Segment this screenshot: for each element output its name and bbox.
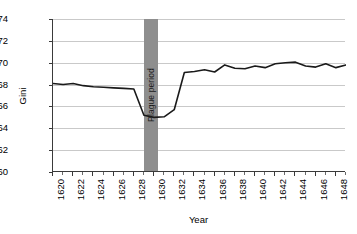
x-minor-tick-mark bbox=[345, 172, 346, 175]
x-tick-label: 1648 bbox=[339, 179, 349, 200]
x-tick-mark bbox=[254, 172, 255, 176]
x-tick-label: 1642 bbox=[278, 179, 288, 200]
x-tick-label: 1622 bbox=[76, 179, 86, 200]
x-minor-tick-mark bbox=[244, 172, 245, 175]
x-minor-tick-mark bbox=[123, 172, 124, 175]
x-tick-label: 1630 bbox=[157, 179, 167, 200]
x-tick-mark bbox=[113, 172, 114, 176]
x-tick-mark bbox=[52, 172, 53, 176]
x-minor-tick-mark bbox=[183, 172, 184, 175]
x-tick-mark bbox=[92, 172, 93, 176]
x-tick-mark bbox=[72, 172, 73, 176]
y-tick-label: 72 bbox=[0, 36, 8, 46]
x-minor-tick-mark bbox=[163, 172, 164, 175]
y-tick-label: 62 bbox=[0, 145, 8, 155]
data-line-svg bbox=[53, 19, 346, 172]
x-tick-mark bbox=[234, 172, 235, 176]
y-axis-title-wrapper: Gini bbox=[18, 0, 19, 234]
x-tick-mark bbox=[335, 172, 336, 176]
y-tick-label: 70 bbox=[0, 58, 8, 68]
x-axis-title: Year bbox=[52, 214, 345, 225]
x-tick-label: 1644 bbox=[298, 179, 308, 200]
x-minor-tick-mark bbox=[103, 172, 104, 175]
x-minor-tick-mark bbox=[264, 172, 265, 175]
x-tick-mark bbox=[274, 172, 275, 176]
gini-line-chart: Gini 6062646668707274 Plague period 1620… bbox=[0, 0, 357, 234]
x-minor-tick-mark bbox=[204, 172, 205, 175]
plot-area: Plague period bbox=[52, 19, 345, 172]
y-axis-title: Gini bbox=[17, 88, 28, 105]
x-minor-tick-mark bbox=[284, 172, 285, 175]
y-tick-label: 66 bbox=[0, 102, 8, 112]
x-tick-label: 1628 bbox=[137, 179, 147, 200]
x-tick-label: 1640 bbox=[258, 179, 268, 200]
x-tick-mark bbox=[294, 172, 295, 176]
y-tick-label: 60 bbox=[0, 167, 8, 177]
data-line-layer bbox=[53, 19, 345, 171]
x-tick-label: 1634 bbox=[197, 179, 207, 200]
x-tick-mark bbox=[193, 172, 194, 176]
x-tick-label: 1636 bbox=[218, 179, 228, 200]
x-minor-tick-mark bbox=[82, 172, 83, 175]
x-minor-tick-mark bbox=[325, 172, 326, 175]
x-minor-tick-mark bbox=[224, 172, 225, 175]
x-tick-mark bbox=[214, 172, 215, 176]
x-tick-mark bbox=[133, 172, 134, 176]
x-minor-tick-mark bbox=[62, 172, 63, 175]
x-tick-mark bbox=[173, 172, 174, 176]
x-tick-label: 1638 bbox=[238, 179, 248, 200]
gini-series-line bbox=[53, 62, 346, 117]
y-tick-label: 64 bbox=[0, 124, 8, 134]
x-tick-label: 1620 bbox=[56, 179, 66, 200]
y-tick-label: 68 bbox=[0, 80, 8, 90]
x-tick-label: 1624 bbox=[96, 179, 106, 200]
x-minor-tick-mark bbox=[143, 172, 144, 175]
y-tick-label: 74 bbox=[0, 14, 8, 24]
x-minor-tick-mark bbox=[305, 172, 306, 175]
x-tick-label: 1646 bbox=[319, 179, 329, 200]
x-tick-mark bbox=[153, 172, 154, 176]
x-tick-label: 1626 bbox=[117, 179, 127, 200]
x-axis: 1620162216241626162816301632163416361638… bbox=[52, 172, 345, 212]
x-tick-label: 1632 bbox=[177, 179, 187, 200]
x-tick-mark bbox=[315, 172, 316, 176]
